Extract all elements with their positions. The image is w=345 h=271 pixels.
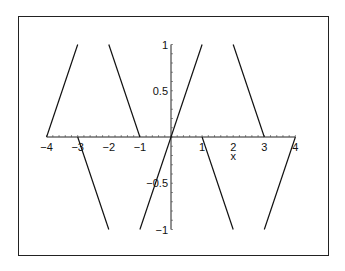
curve-segment xyxy=(202,137,233,230)
plot-area: −4−3−2−1123410.5−0.5−1x xyxy=(0,0,345,271)
x-tick-label: 4 xyxy=(292,141,298,153)
y-tick-label: −0.5 xyxy=(146,177,168,189)
curve-segment xyxy=(233,45,264,138)
x-tick-label: 1 xyxy=(199,141,205,153)
y-tick-label: −1 xyxy=(155,224,168,236)
curve-segment xyxy=(264,137,295,230)
curve-segment xyxy=(109,45,140,138)
y-tick-label: 0.5 xyxy=(153,85,168,97)
x-tick-label: −2 xyxy=(103,141,116,153)
x-tick-label: −3 xyxy=(71,141,84,153)
x-tick-label: −4 xyxy=(40,141,53,153)
x-tick-label: 3 xyxy=(261,141,267,153)
y-tick-label: 1 xyxy=(162,39,168,51)
curve-segment xyxy=(47,45,78,138)
x-tick-label: −1 xyxy=(134,141,147,153)
x-axis-label: x xyxy=(230,150,236,162)
